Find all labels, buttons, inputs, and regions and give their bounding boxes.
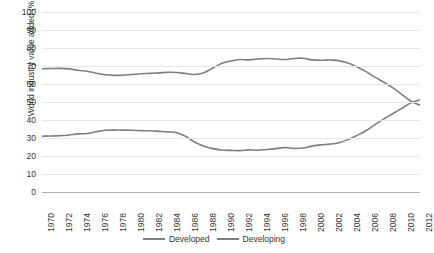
legend-swatch-icon xyxy=(143,238,165,240)
x-tick-label: 1970 xyxy=(46,213,56,232)
x-tick-label: 2012 xyxy=(424,213,434,232)
y-tick-label: 30 xyxy=(10,134,36,142)
x-tick-label: 2002 xyxy=(334,213,344,232)
legend-item-label: Developed xyxy=(169,234,210,244)
x-axis-line xyxy=(42,192,420,193)
legend-item-developed[interactable]: Developed xyxy=(143,234,210,244)
gridline xyxy=(42,12,420,13)
y-tick-label: 60 xyxy=(10,80,36,88)
gridline xyxy=(42,84,420,85)
y-axis-ticks: 1009080706050403020100 xyxy=(8,0,36,200)
y-tick-label: 90 xyxy=(10,26,36,34)
y-tick-label: 10 xyxy=(10,170,36,178)
legend-item-developing[interactable]: Developing xyxy=(217,234,286,244)
x-tick-label: 2008 xyxy=(388,213,398,232)
chart-legend: DevelopedDeveloping xyxy=(0,234,428,244)
x-tick-label: 2006 xyxy=(370,213,380,232)
y-tick-label: 70 xyxy=(10,62,36,70)
legend-swatch-icon xyxy=(217,238,239,240)
plot-area xyxy=(42,12,420,192)
gridline xyxy=(42,66,420,67)
y-tick-label: 20 xyxy=(10,152,36,160)
x-tick-label: 1994 xyxy=(262,213,272,232)
legend-item-label: Developing xyxy=(243,234,286,244)
gridline xyxy=(42,174,420,175)
gridline xyxy=(42,120,420,121)
y-tick-label: 50 xyxy=(10,98,36,106)
y-tick-label: 0 xyxy=(10,188,36,196)
y-tick-label: 80 xyxy=(10,44,36,52)
gridline xyxy=(42,156,420,157)
gridline xyxy=(42,30,420,31)
x-tick-label: 1986 xyxy=(190,213,200,232)
x-tick-label: 1996 xyxy=(280,213,290,232)
x-tick-label: 2010 xyxy=(406,213,416,232)
x-tick-label: 1990 xyxy=(226,213,236,232)
x-tick-label: 1976 xyxy=(100,213,110,232)
x-tick-label: 1980 xyxy=(136,213,146,232)
y-tick-label: 40 xyxy=(10,116,36,124)
y-tick-label: 100 xyxy=(10,8,36,16)
gridline xyxy=(42,102,420,103)
x-tick-label: 1978 xyxy=(118,213,128,232)
x-tick-label: 1984 xyxy=(172,213,182,232)
x-tick-label: 2004 xyxy=(352,213,362,232)
x-tick-label: 1982 xyxy=(154,213,164,232)
x-tick-label: 1998 xyxy=(298,213,308,232)
x-tick-label: 1972 xyxy=(64,213,74,232)
gridline xyxy=(42,138,420,139)
x-tick-label: 2000 xyxy=(316,213,326,232)
x-tick-label: 1988 xyxy=(208,213,218,232)
x-tick-label: 1992 xyxy=(244,213,254,232)
gridline xyxy=(42,48,420,49)
series-line-developing xyxy=(42,100,420,151)
x-tick-label: 1974 xyxy=(82,213,92,232)
